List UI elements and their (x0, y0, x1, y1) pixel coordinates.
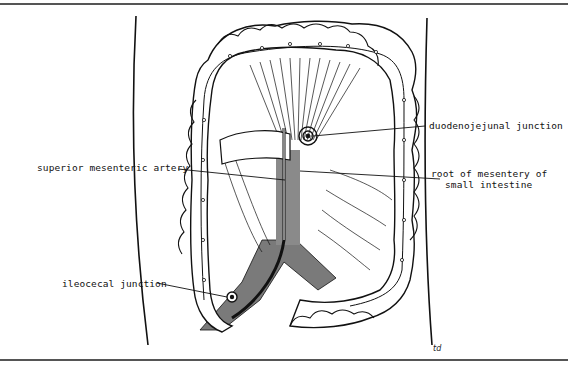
colon (191, 21, 417, 332)
leader-root (300, 171, 440, 179)
mesentery-fan (224, 58, 392, 270)
jejunum-coil (220, 131, 290, 164)
vessel-dots (201, 42, 405, 281)
label-root-of-mesentery-line1: root of mesentery of (431, 168, 547, 179)
label-root-of-mesentery-line2: small intestine (445, 179, 532, 190)
label-duodenojejunal-junction: duodenojejunal junction (429, 120, 563, 131)
artist-signature: td (433, 344, 441, 353)
leader-ileocecal (157, 283, 227, 297)
body-outline-right (425, 18, 432, 345)
body-outline-left (133, 16, 148, 345)
ileocecal-junction (227, 292, 237, 302)
label-superior-mesenteric-artery: superior mesenteric artery (37, 162, 188, 173)
label-ileocecal-junction: ileocecal junction (62, 278, 167, 289)
